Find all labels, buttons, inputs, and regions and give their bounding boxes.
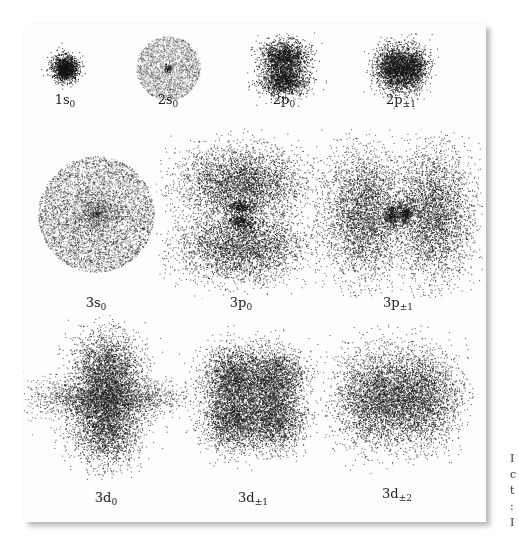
orbital-2p+-1-label: 2p±1 [386,92,416,109]
label-main: 2p [386,92,403,107]
orbital-3d0-label: 3d0 [95,490,117,507]
label-subscript: 0 [173,99,179,109]
orbital-3d0-plot [23,315,189,481]
side-text-5: I [510,516,514,529]
orbital-3p+-1-label: 3p±1 [383,295,413,312]
label-subscript: 0 [246,302,252,312]
orbital-3p+-1-plot [313,129,483,299]
orbital-3p0-plot [156,129,326,299]
label-main: 2p [273,92,290,107]
label-main: 3s [86,295,101,310]
label-subscript: ±2 [399,493,412,503]
orbital-2p0-label: 2p0 [273,92,295,109]
label-main: 3p [383,295,400,310]
orbital-3p0-label: 3p0 [230,295,252,312]
label-subscript: ±1 [400,302,413,312]
orbital-2s0-label: 2s0 [158,92,179,109]
label-main: 3p [230,295,247,310]
label-main: 3d [238,490,255,505]
side-text-3: t [510,484,514,497]
label-subscript: 0 [111,497,117,507]
orbital-3d+-2-label: 3d±2 [382,486,412,503]
side-text-2: c [510,468,516,481]
orbital-3s0-plot [23,141,169,287]
label-subscript: 0 [70,99,76,109]
orbital-1s0-plot [36,39,94,97]
label-main: 3d [382,486,399,501]
label-subscript: 0 [101,302,107,312]
label-main: 3d [95,490,112,505]
label-subscript: ±1 [403,99,416,109]
orbital-3d+-1-label: 3d±1 [238,490,268,507]
label-subscript: ±1 [255,497,268,507]
label-subscript: 0 [289,99,295,109]
side-text-1: I [510,452,514,465]
orbital-3d+-1-plot [176,321,330,475]
orbital-3s0-label: 3s0 [86,295,107,312]
side-text-4: : [510,500,514,513]
orbital-3d+-2-plot [320,321,474,475]
label-main: 1s [55,92,70,107]
orbital-1s0-label: 1s0 [55,92,76,109]
label-main: 2s [158,92,173,107]
